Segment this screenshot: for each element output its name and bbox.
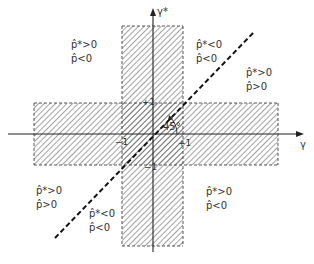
region-line1: p̂*<0 [89,207,115,221]
region-lower-right: p̂*>0 p̂<0 [206,185,232,213]
region-upper-left: p̂*>0 p̂<0 [71,38,97,66]
region-upper-middle: p̂*<0 p̂<0 [196,38,222,66]
region-line2: p̂<0 [71,52,97,66]
tick-x-pos: +1 [178,137,191,149]
gamma-star-axis-arrow-icon [150,8,156,16]
region-line2: p̂<0 [196,52,222,66]
region-line1: p̂*>0 [71,38,97,52]
gamma-axis-label: γ [300,139,306,151]
gamma-star-axis-label: γ* [157,6,168,18]
region-lower-left: p̂*>0 p̂>0 [36,184,62,212]
tick-x-neg: −1 [115,136,128,148]
region-line1: p̂*>0 [206,185,232,199]
region-line2: p̂<0 [206,199,232,213]
tick-y-neg: −1 [144,161,157,173]
angle-label: 45° [163,121,181,133]
region-line1: p̂*>0 [246,66,272,80]
region-lower-middle: p̂*<0 p̂<0 [89,207,115,235]
tick-y-pos: +1 [142,96,155,108]
region-line2: p̂<0 [89,221,115,235]
gamma-axis-arrow-icon [296,131,304,137]
region-line1: p̂*>0 [36,184,62,198]
region-line2: p̂>0 [36,198,62,212]
region-line1: p̂*<0 [196,38,222,52]
region-line2: p̂>0 [246,80,272,94]
diagram-canvas [0,0,314,264]
region-right: p̂*>0 p̂>0 [246,66,272,94]
